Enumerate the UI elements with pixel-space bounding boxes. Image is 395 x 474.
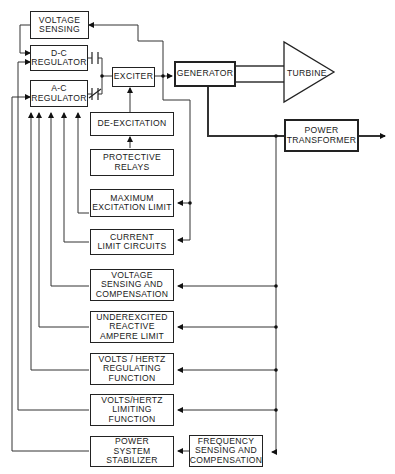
contact-symbols (89, 52, 101, 100)
ac-regulator-block: A-C REGULATOR (30, 80, 88, 107)
power-system-stabilizer-block: POWER SYSTEM STABILIZER (90, 436, 174, 467)
power-transformer-block: POWER TRANSFORMER (284, 119, 359, 152)
exciter-block: EXCITER (112, 67, 155, 87)
generator-block: GENERATOR (174, 61, 236, 87)
voltage-sensing-compensation-block: VOLTAGE SENSING AND COMPENSATION (90, 269, 174, 301)
voltage-sensing-block: VOLTAGE SENSING (30, 11, 89, 39)
frequency-sensing-block: FREQUENCY SENSING AND COMPENSATION (189, 435, 263, 467)
underexcited-reactive-limit-block: UNDEREXCITED REACTIVE AMPERE LIMIT (90, 311, 174, 343)
current-limit-circuits-block: CURRENT LIMIT CIRCUITS (90, 229, 174, 255)
dc-regulator-block: D-C REGULATOR (30, 45, 88, 71)
volts-hertz-limiting-block: VOLTS/HERTZ LIMITING FUNCTION (90, 394, 174, 426)
de-excitation-block: DE-EXCITATION (90, 112, 174, 136)
volts-hertz-regulating-block: VOLTS / HERTZ REGULATING FUNCTION (90, 353, 174, 385)
protective-relays-block: PROTECTIVE RELAYS (90, 149, 174, 176)
turbine-label: TURBINE (287, 68, 327, 78)
max-excitation-limit-block: MAXIMUM EXCITATION LIMIT (90, 189, 174, 217)
